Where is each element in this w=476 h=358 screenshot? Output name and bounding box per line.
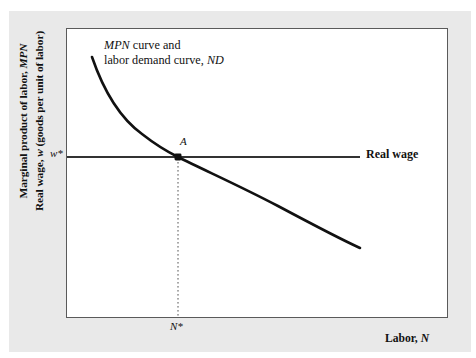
- x-axis-label-symbol: N: [421, 332, 429, 345]
- y-axis-label-line2: Real wage, w (goods per unit of labor): [32, 0, 48, 255]
- x-axis-label-text: Labor,: [385, 332, 421, 345]
- y-axis-label-line2-symbol: w: [33, 149, 45, 157]
- real-wage-legend-label: Real wage: [366, 147, 418, 162]
- y-axis-label: Marginal product of labor, MPN Real wage…: [16, 0, 50, 255]
- y-axis-label-line2-text-a: Real wage,: [33, 157, 45, 211]
- y-axis-label-line1: Marginal product of labor, MPN: [16, 0, 32, 255]
- curve-annotation: MPN curve and labor demand curve, ND: [104, 38, 224, 68]
- y-axis-label-line1-text: Marginal product of labor,: [17, 69, 29, 199]
- curve-annotation-mpn-symbol: MPN: [104, 38, 130, 52]
- x-axis-tick-label-n-star: N*: [170, 320, 183, 332]
- curve-annotation-line1-text: curve and: [130, 38, 181, 52]
- y-axis-tick-label-w-star: w*: [50, 147, 63, 159]
- economics-figure: Marginal product of labor, MPN Real wage…: [0, 0, 476, 358]
- y-axis-label-line1-symbol: MPN: [17, 44, 29, 69]
- curve-annotation-line2-text: labor demand curve,: [104, 53, 207, 67]
- plot-panel: [66, 28, 448, 318]
- point-a-label: A: [180, 135, 187, 147]
- curve-annotation-line2: labor demand curve, ND: [104, 53, 224, 68]
- x-axis-label: Labor, N: [385, 332, 429, 345]
- curve-annotation-nd-symbol: ND: [207, 53, 224, 67]
- y-axis-label-line2-text-b: (goods per unit of labor): [33, 31, 45, 149]
- curve-annotation-line1: MPN curve and: [104, 38, 224, 53]
